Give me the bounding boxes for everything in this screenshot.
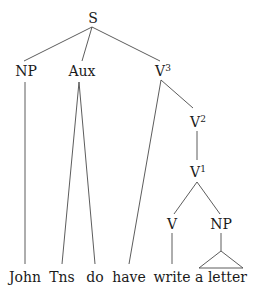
edge-aux-do — [79, 82, 95, 264]
tree-leaves: John Tns do have write a letter — [7, 269, 247, 285]
tree-nodes: S NP Aux V3 V2 V1 V NP — [15, 10, 232, 232]
edge-v3-have — [129, 80, 161, 264]
leaf-write: write — [153, 269, 190, 285]
leaf-do: do — [86, 269, 103, 285]
leaf-have: have — [112, 269, 146, 285]
node-v3: V3 — [154, 63, 171, 79]
edge-s-np — [24, 27, 92, 61]
node-v1-superscript: 1 — [200, 164, 206, 174]
node-v3-superscript: 3 — [165, 63, 171, 73]
leaf-a-letter: a letter — [195, 269, 247, 285]
np-triangle — [199, 251, 243, 268]
node-np: NP — [15, 63, 37, 79]
node-s: S — [88, 10, 98, 26]
edge-v3-v2 — [161, 80, 193, 108]
edge-aux-tns — [62, 82, 79, 264]
edge-s-aux — [82, 27, 92, 61]
node-v: V — [166, 216, 178, 232]
edge-v1-np — [197, 182, 220, 214]
edge-v1-v — [174, 182, 197, 214]
node-np-object: NP — [210, 216, 232, 232]
syntax-tree-diagram: S NP Aux V3 V2 V1 V NP John Tns do have … — [0, 0, 256, 296]
node-aux: Aux — [67, 63, 95, 79]
node-v2: V2 — [189, 114, 206, 130]
leaf-john: John — [7, 269, 41, 285]
edge-s-v3 — [92, 27, 160, 61]
node-v1: V1 — [189, 164, 206, 180]
node-v2-superscript: 2 — [200, 114, 206, 124]
leaf-tns: Tns — [49, 269, 75, 285]
